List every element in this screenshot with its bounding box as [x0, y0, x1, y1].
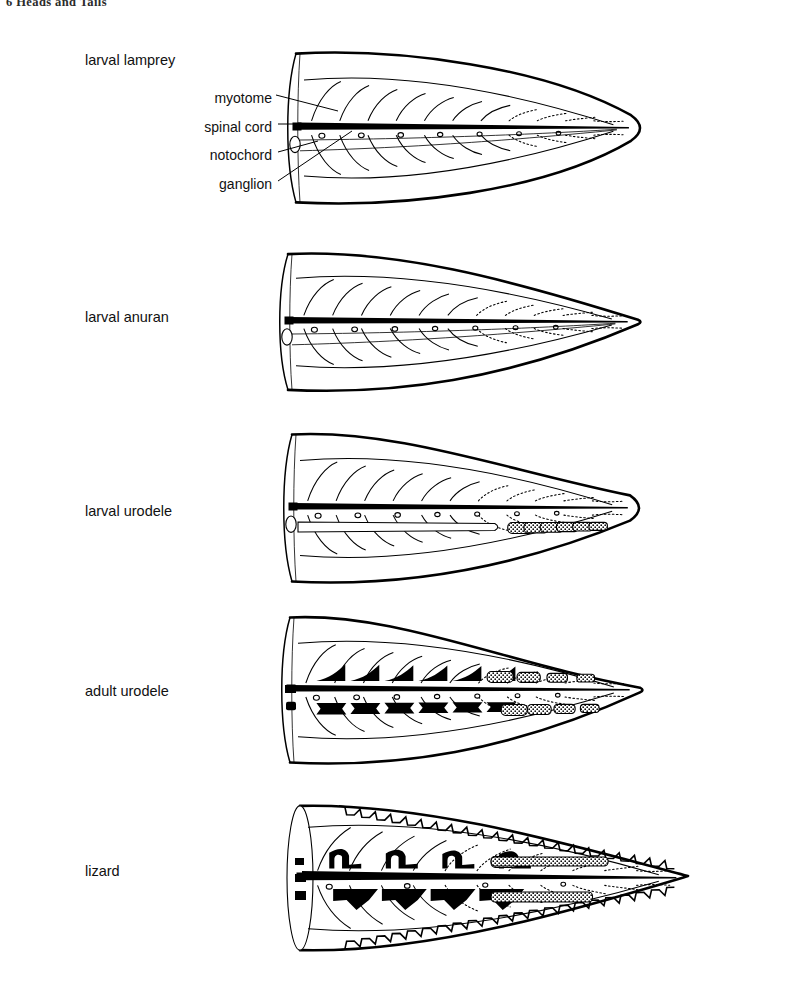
centrum-stippled [491, 892, 592, 902]
myotome-septum [535, 493, 565, 500]
myotome-septum [453, 135, 482, 154]
ganglion [435, 512, 440, 516]
myotome-septum [422, 478, 452, 501]
myotome-septum [340, 85, 369, 120]
vertebral-centrum-stippled [554, 704, 575, 713]
myotome-septum [450, 482, 480, 501]
spinal-cord [302, 871, 676, 880]
haemal-arch [333, 889, 378, 910]
myotome-septum [537, 113, 566, 120]
myotome-septum [419, 294, 449, 315]
myotome-septum [592, 514, 622, 515]
ganglion [395, 513, 401, 518]
notochord [300, 130, 617, 151]
ganglion [515, 512, 520, 516]
myotome-septum [396, 93, 425, 120]
specimen-drawings [280, 53, 688, 951]
myotome-septum [424, 135, 453, 158]
myotome-septum [453, 101, 482, 120]
vertebral-centrum-stippled [528, 704, 552, 714]
vertebral-centrum-stippled [580, 704, 599, 712]
vertebral-centrum [316, 703, 346, 714]
notochord-cross-section [286, 516, 296, 532]
spinal-cord [298, 123, 629, 130]
ganglion [319, 133, 325, 138]
myotome-septum [393, 474, 423, 501]
myotome-septum [534, 309, 564, 316]
myotome-septum [306, 697, 336, 735]
spinal-cord-cross-section [285, 317, 294, 325]
neural-spine [442, 851, 474, 869]
myotome-septum [565, 697, 595, 700]
myotome-septum [333, 283, 363, 315]
myotome-septum [537, 135, 566, 142]
neural-spine [329, 849, 361, 868]
myotome-septum [564, 515, 594, 518]
myotome-septum [507, 490, 537, 501]
vertebral-centrum [350, 703, 380, 714]
specimen-lizard [287, 806, 688, 951]
myotome-septum [592, 328, 622, 329]
ganglion [555, 693, 560, 697]
ganglion [554, 511, 559, 515]
ganglion [392, 327, 398, 332]
ganglion [315, 513, 321, 518]
ganglion [394, 695, 400, 700]
myotome-septum [594, 121, 623, 122]
myotome-septum [564, 497, 594, 500]
myotome-septum [592, 501, 622, 502]
vertebral-centrum-stippled [589, 522, 607, 530]
spinal-cord [292, 685, 630, 692]
myotome-septum [308, 462, 338, 501]
myotome-septum [505, 329, 535, 339]
specimen-larval-urodele [284, 434, 639, 582]
ganglion [483, 883, 488, 887]
myotome-septum [563, 312, 593, 315]
vertebral-centrum [384, 703, 414, 714]
ganglion [434, 694, 439, 698]
myotome-septum [592, 315, 622, 316]
notochord-cross-section [290, 136, 300, 152]
spinal-cord-cross-section [289, 503, 298, 511]
myotome-septum [594, 134, 623, 135]
myotome-septum [413, 840, 446, 870]
myotome-septum [312, 82, 341, 121]
ganglion [553, 325, 558, 329]
vertebral-centrum-stippled [501, 705, 527, 716]
spinal-cord [294, 503, 628, 510]
myotome-septum [481, 105, 510, 120]
spinal-cord-cross-section [285, 685, 296, 693]
myotome-septum [340, 135, 369, 170]
myotome-septum [368, 135, 397, 166]
ganglion [475, 694, 480, 698]
neural-spine [316, 664, 345, 681]
myotome-septum [396, 135, 425, 162]
ganglion [355, 513, 361, 518]
ganglion [358, 133, 364, 138]
vertebral-centrum-stippled [547, 673, 567, 682]
myotome-septum [365, 470, 395, 501]
vertebral-centrum [418, 703, 448, 713]
myotome-septum [308, 515, 338, 554]
ganglion [354, 695, 360, 700]
notochord-sheath [298, 522, 498, 532]
specimen-lamprey [288, 53, 640, 204]
myotome-septum [478, 486, 508, 501]
neural-spine-stippled [491, 857, 608, 866]
neural-spine [418, 666, 447, 681]
ganglion [561, 882, 566, 886]
figure-page: 6 Heads and Tails larval lamprey larval … [0, 0, 805, 1002]
ganglion [313, 695, 319, 700]
ganglion [438, 132, 443, 136]
haemal-arch [382, 889, 427, 910]
myotome-septum [390, 290, 420, 315]
tail-anatomy-diagram [0, 0, 805, 1002]
myotome-septum [361, 287, 391, 316]
ganglion [475, 512, 480, 516]
myotome-septum [563, 329, 593, 332]
ganglion [432, 326, 437, 330]
ganglion [556, 131, 561, 135]
spinal-cord [290, 317, 628, 324]
myotome-septum [336, 515, 366, 550]
ganglion [515, 694, 520, 698]
